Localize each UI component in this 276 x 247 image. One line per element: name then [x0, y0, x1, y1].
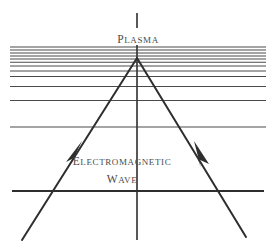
electromagnetic-wave-ray	[22, 58, 246, 240]
diagram-canvas	[0, 0, 276, 247]
incoming-arrow-icon	[66, 141, 82, 166]
plasma-wave-figure: PLASMA ELECTROMAGNETIC WAVE	[0, 0, 276, 247]
incoming-ray-leg	[22, 58, 137, 240]
outgoing-ray-leg	[137, 58, 246, 237]
